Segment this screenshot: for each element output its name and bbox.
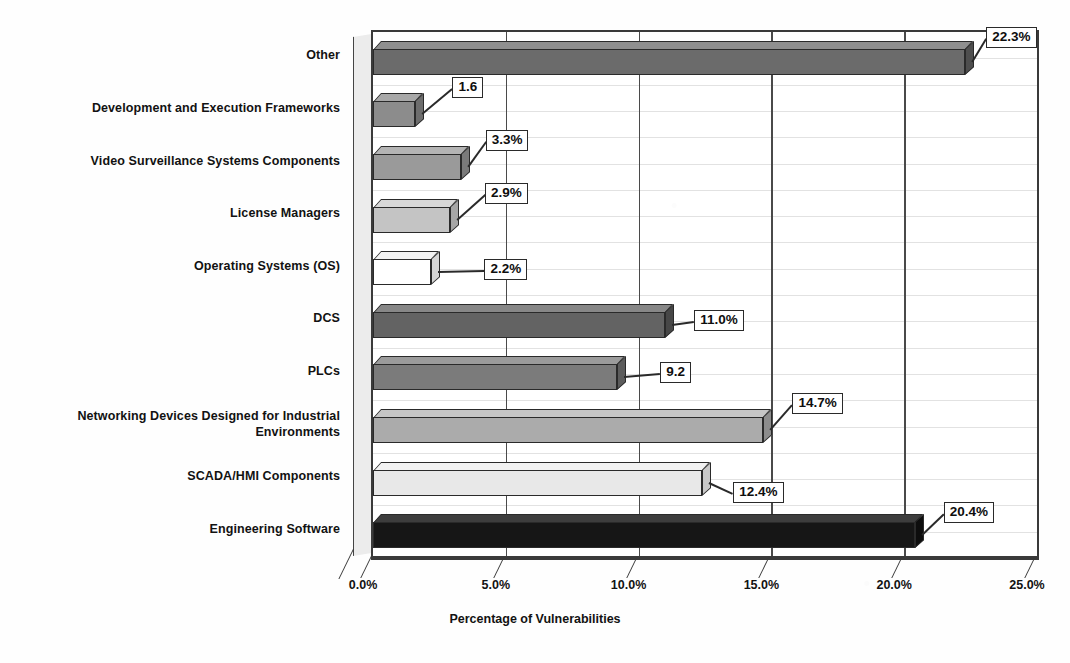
category-label-7: Networking Devices Designed for Industri…: [10, 409, 340, 440]
horizontal-gridline: [373, 164, 1037, 165]
bar-0[interactable]: [373, 41, 965, 67]
category-label-1: Development and Execution Frameworks: [10, 101, 340, 117]
bar-side-face: [702, 461, 711, 495]
bar-9[interactable]: [373, 514, 915, 540]
bar-front-face: [373, 207, 450, 233]
horizontal-gridline: [373, 190, 1037, 191]
bar-4[interactable]: [373, 251, 431, 277]
data-label-5: 11.0%: [694, 310, 744, 331]
plot-inner: [371, 30, 1039, 560]
x-tick-label-15: 15.0%: [744, 578, 779, 592]
chart-corner: [338, 549, 374, 579]
category-label-8: SCADA/HMI Components: [10, 469, 340, 485]
horizontal-gridline: [373, 453, 1037, 454]
bar-front-face: [373, 154, 461, 180]
bar-side-face: [431, 251, 440, 285]
data-label-1: 1.6: [452, 77, 483, 98]
x-tick-label-5: 5.0%: [482, 578, 511, 592]
bar-front-face: [373, 470, 702, 496]
x-axis-line: [371, 556, 1037, 558]
horizontal-gridline: [373, 242, 1037, 243]
data-label-6: 9.2: [660, 362, 691, 383]
category-label-2: Video Surveillance Systems Components: [10, 154, 340, 170]
bar-front-face: [373, 259, 431, 285]
bar-5[interactable]: [373, 304, 665, 330]
data-label-4: 2.2%: [484, 259, 527, 280]
bar-2[interactable]: [373, 146, 461, 172]
bar-side-face: [617, 356, 626, 390]
category-label-0: Other: [10, 48, 340, 64]
bar-front-face: [373, 312, 665, 338]
vertical-gridline-20: [904, 32, 905, 558]
horizontal-gridline: [373, 295, 1037, 296]
category-label-9: Engineering Software: [10, 522, 340, 538]
horizontal-gridline: [373, 505, 1037, 506]
data-label-3: 2.9%: [485, 183, 528, 204]
data-label-8: 12.4%: [733, 482, 783, 503]
bar-7[interactable]: [373, 409, 763, 435]
plot-area-3d: [340, 25, 1050, 585]
horizontal-gridline: [373, 111, 1037, 112]
bar-1[interactable]: [373, 93, 415, 119]
x-tick-label-20: 20.0%: [876, 578, 911, 592]
data-label-0: 22.3%: [986, 27, 1036, 48]
horizontal-gridline: [373, 400, 1037, 401]
x-tick-label-0: 0.0%: [349, 578, 378, 592]
data-label-9: 20.4%: [944, 502, 994, 523]
category-label-5: DCS: [10, 311, 340, 327]
bar-side-face: [915, 514, 924, 548]
category-axis-labels: OtherDevelopment and Execution Framework…: [0, 25, 350, 555]
bar-front-face: [373, 49, 965, 75]
horizontal-gridline: [373, 348, 1037, 349]
bar-6[interactable]: [373, 356, 617, 382]
x-tick-label-25: 25.0%: [1009, 578, 1044, 592]
bar-side-face: [665, 304, 674, 338]
category-label-4: Operating Systems (OS): [10, 259, 340, 275]
data-label-7: 14.7%: [792, 393, 842, 414]
bar-8[interactable]: [373, 462, 702, 488]
category-label-6: PLCs: [10, 364, 340, 380]
chart-left-wall: [353, 34, 373, 556]
vertical-gridline-15: [771, 32, 772, 558]
bar-front-face: [373, 364, 617, 390]
bar-front-face: [373, 522, 915, 548]
x-tick-label-10: 10.0%: [611, 578, 646, 592]
data-label-2: 3.3%: [486, 130, 529, 151]
category-label-3: License Managers: [10, 206, 340, 222]
vulnerability-bar-chart: OtherDevelopment and Execution Framework…: [0, 0, 1070, 663]
bar-3[interactable]: [373, 199, 450, 225]
x-axis-title: Percentage of Vulnerabilities: [0, 612, 1070, 626]
horizontal-gridline: [373, 216, 1037, 217]
bar-front-face: [373, 417, 763, 443]
horizontal-gridline: [373, 137, 1037, 138]
bar-front-face: [373, 101, 415, 127]
